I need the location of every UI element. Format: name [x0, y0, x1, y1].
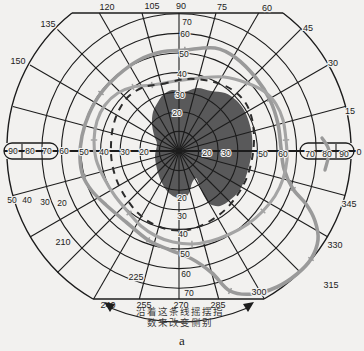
- radius-label: 40: [178, 229, 188, 239]
- radius-label: 90: [339, 149, 349, 159]
- middle-isopter-tick: [246, 80, 248, 86]
- swing-annotation: 沿着这条线摇摆指 数来改变侧别: [90, 306, 270, 328]
- angle-label-120: 120: [99, 2, 114, 12]
- angle-label-210: 210: [55, 237, 70, 247]
- meridian-330: [179, 151, 328, 237]
- radius-label: 70: [42, 146, 52, 156]
- meridian-135: [57, 29, 179, 151]
- radius-label: 50: [258, 149, 268, 159]
- radius-label: 60: [181, 269, 191, 279]
- meridian-225: [57, 151, 179, 273]
- angle-label-105: 105: [144, 1, 159, 11]
- radius-label: 30: [40, 197, 50, 207]
- middle-isopter-tick: [132, 84, 133, 90]
- radius-label: 20: [202, 148, 212, 158]
- goldmann-field-chart: 1201059075601354515030150345330315300285…: [0, 0, 364, 351]
- radius-label: 60: [59, 146, 69, 156]
- swing-annotation-line2: 数来改变侧别: [90, 317, 270, 328]
- radius-label: 70: [182, 17, 192, 27]
- swing-annotation-line1: 沿着这条线摇摆指: [90, 306, 270, 317]
- radius-label: 30: [177, 211, 187, 221]
- radius-label: 20: [177, 193, 187, 203]
- middle-isopter-tick: [283, 140, 289, 141]
- angle-label-15: 15: [345, 106, 355, 116]
- radius-label: 50: [7, 195, 17, 205]
- radius-label: 90: [8, 146, 18, 156]
- goldmann-field-figure: 1201059075601354515030150345330315300285…: [0, 0, 364, 351]
- radius-label: 20: [57, 198, 67, 208]
- radius-label: 80: [322, 149, 332, 159]
- radius-label: 50: [180, 249, 190, 259]
- angle-label-345: 345: [341, 199, 356, 209]
- angle-label-0: 0: [356, 147, 361, 157]
- angle-label-300: 300: [251, 287, 266, 297]
- angle-label-225: 225: [128, 272, 143, 282]
- radius-label: 30: [175, 90, 185, 100]
- radius-label: 40: [177, 69, 187, 79]
- radius-label: 30: [120, 147, 130, 157]
- meridian-210: [30, 151, 179, 237]
- angle-label-135: 135: [40, 19, 55, 29]
- radius-label: 60: [180, 29, 190, 39]
- radius-label: 20: [139, 147, 149, 157]
- boundary-arc-lower-right: [264, 159, 351, 299]
- angle-label-45: 45: [303, 23, 313, 33]
- radius-label: 60: [278, 149, 288, 159]
- radius-label: 50: [79, 147, 89, 157]
- radius-label: 40: [22, 195, 32, 205]
- radius-label: 30: [221, 148, 231, 158]
- angle-label-315: 315: [323, 280, 338, 290]
- angle-label-90: 90: [176, 1, 186, 11]
- radius-label: 20: [172, 108, 182, 118]
- radius-label: 40: [99, 147, 109, 157]
- boundary-arc-lower-left: [7, 159, 93, 299]
- radius-label: 70: [184, 288, 194, 298]
- radius-label: 70: [305, 149, 315, 159]
- radius-label: 80: [25, 146, 35, 156]
- radius-label: 50: [179, 49, 189, 59]
- angle-label-150: 150: [10, 56, 25, 66]
- angle-label-60: 60: [262, 3, 272, 13]
- angle-label-30: 30: [328, 58, 338, 68]
- angle-label-75: 75: [217, 2, 227, 12]
- angle-label-330: 330: [327, 240, 342, 250]
- figure-caption: a: [0, 333, 364, 349]
